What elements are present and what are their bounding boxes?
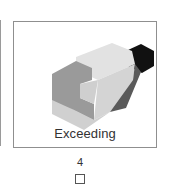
option-checkbox[interactable] xyxy=(75,174,85,184)
adjacent-card-border xyxy=(0,20,1,146)
card-label: Exceeding xyxy=(14,126,156,141)
answer-card[interactable]: Exceeding xyxy=(13,21,157,148)
option-number: 4 xyxy=(70,156,90,168)
